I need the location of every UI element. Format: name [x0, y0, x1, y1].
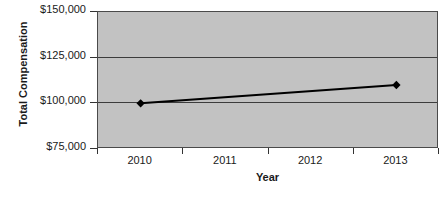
x-axis-tick-mark [353, 148, 354, 154]
plot-area [97, 11, 438, 148]
y-axis-tick-mark [90, 11, 97, 12]
data-point-marker [136, 99, 144, 107]
y-axis-tick-mark [90, 102, 97, 103]
x-axis-title: Year [97, 171, 438, 183]
y-axis-tick-label: $100,000 [14, 94, 86, 106]
x-axis-tick-label: 2013 [355, 154, 435, 166]
x-axis-tick-mark [268, 148, 269, 154]
x-axis-tick-label: 2012 [270, 154, 350, 166]
data-point-marker [392, 81, 400, 89]
line-chart: Total Compensation $150,000$125,000$100,… [0, 0, 443, 199]
data-series-layer [98, 12, 438, 148]
x-axis-tick-mark [182, 148, 183, 154]
y-axis-tick-mark [90, 57, 97, 58]
y-axis-tick-label: $125,000 [14, 49, 86, 61]
x-axis-tick-label: 2011 [185, 154, 265, 166]
x-axis-tick-mark [438, 148, 439, 154]
x-axis-tick-mark [97, 148, 98, 154]
x-axis-tick-label: 2010 [100, 154, 180, 166]
y-axis-tick-label: $75,000 [14, 140, 86, 152]
series-line [141, 85, 397, 103]
y-axis-tick-label: $150,000 [14, 3, 86, 15]
y-axis-tick-mark [90, 148, 97, 149]
y-axis-tick-labels: $150,000$125,000$100,000$75,000 [10, 0, 86, 199]
